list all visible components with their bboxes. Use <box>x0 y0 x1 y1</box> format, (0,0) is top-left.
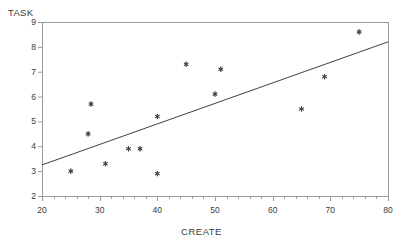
data-point <box>219 67 224 72</box>
x-axis-tick-label: 40 <box>153 205 162 215</box>
data-point <box>89 101 94 106</box>
y-axis-tick-label: 9 <box>20 17 36 27</box>
y-axis-tick-label: 4 <box>20 141 36 151</box>
data-point <box>103 161 108 166</box>
data-point <box>86 131 91 136</box>
chart-title-faint <box>0 0 403 9</box>
y-axis-tick-label: 3 <box>20 166 36 176</box>
data-point-group <box>69 29 362 176</box>
y-axis-tick-label: 7 <box>20 67 36 77</box>
data-point <box>69 169 74 174</box>
data-point <box>126 146 131 151</box>
x-axis-tick-label: 50 <box>210 205 219 215</box>
data-point <box>357 29 362 34</box>
regression-line <box>42 42 388 165</box>
plot-canvas <box>0 0 403 246</box>
y-axis-tick-label: 5 <box>20 116 36 126</box>
y-axis-tick-label: 6 <box>20 92 36 102</box>
y-axis-tick-label: 8 <box>20 42 36 52</box>
data-point <box>155 171 160 176</box>
data-point <box>138 146 143 151</box>
data-point <box>299 106 304 111</box>
data-point <box>213 91 218 96</box>
x-axis-tick-label: 20 <box>37 205 46 215</box>
data-point <box>322 74 327 79</box>
y-axis-tick-label: 2 <box>20 191 36 201</box>
x-axis-tick-label: 80 <box>383 205 392 215</box>
x-axis-tick-label: 70 <box>326 205 335 215</box>
scatter-plot: TASK CREATE 2345678920304050607080 <box>0 0 403 246</box>
data-point <box>155 114 160 119</box>
data-point <box>184 62 189 67</box>
x-axis-tick-label: 60 <box>268 205 277 215</box>
x-axis-tick-label: 30 <box>95 205 104 215</box>
plot-frame <box>43 23 389 197</box>
x-axis-title: CREATE <box>0 226 403 237</box>
